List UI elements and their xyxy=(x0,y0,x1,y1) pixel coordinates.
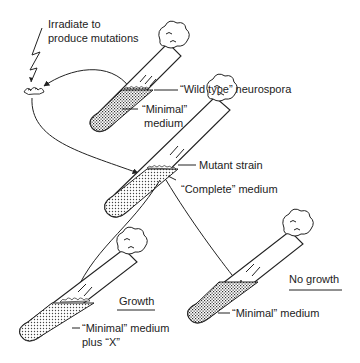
label-minimal-top-2: medium xyxy=(144,117,183,129)
label-complete-medium: “Complete” medium xyxy=(181,183,278,195)
label-irradiate-1: Irradiate to xyxy=(48,18,101,30)
label-irradiate-2: produce mutations xyxy=(48,32,139,44)
arrow-tube-to-sample xyxy=(44,70,130,88)
lightning-icon xyxy=(29,28,42,82)
label-growth: Growth xyxy=(119,295,154,307)
arrow-to-no-growth-tube xyxy=(166,180,236,280)
label-minimal-plus-x-1: “Minimal” medium xyxy=(82,322,169,334)
label-no-growth: No growth xyxy=(289,273,339,285)
label-minimal-plus-x-2: plus “X” xyxy=(82,336,120,348)
no-growth-tube xyxy=(188,209,314,323)
label-mutant-strain: Mutant strain xyxy=(199,159,263,171)
irradiated-sample-icon xyxy=(24,88,44,95)
label-minimal-top-1: “Minimal” xyxy=(142,103,188,115)
label-wild-type: “Wild type” neurospora xyxy=(180,83,292,95)
diagram-canvas: Irradiate to produce mutations “Wild typ… xyxy=(0,0,360,363)
leader-complete-medium xyxy=(168,176,176,180)
label-minimal-bottom: “Minimal” medium xyxy=(232,307,319,319)
